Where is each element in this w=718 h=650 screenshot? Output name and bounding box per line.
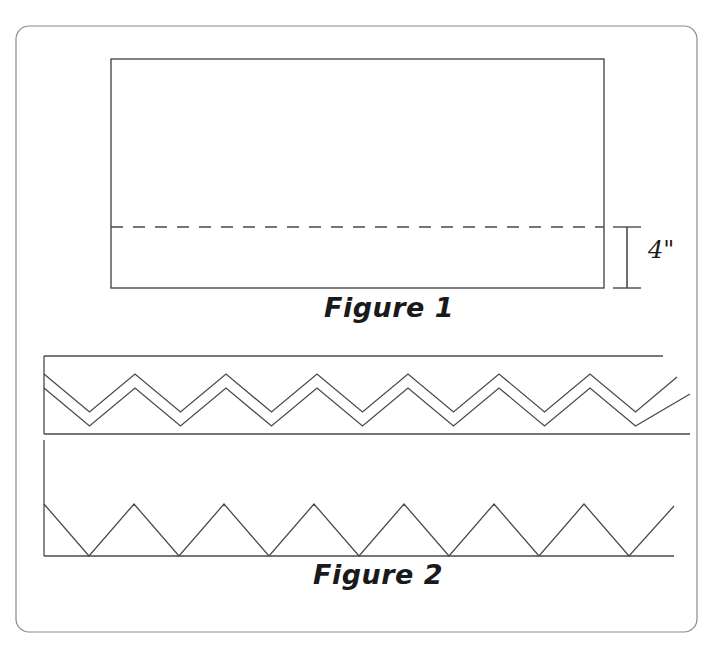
figure-1-rectangle <box>111 59 604 288</box>
dimension-label-4-inch: 4" <box>648 236 674 264</box>
lower-zigzag-cut-line <box>44 504 674 556</box>
figure-1-caption: Figure 1 <box>0 292 718 323</box>
dimension-marker-4in <box>613 227 641 288</box>
diagram-page: Figure 1 Figure 2 4" <box>0 0 718 650</box>
figure-2-upper-panel <box>44 356 690 434</box>
figure-2-caption: Figure 2 <box>0 559 718 590</box>
upper-zigzag-line-inner <box>44 388 690 426</box>
figure-1-group <box>111 59 641 288</box>
figure-diagram-canvas <box>0 0 718 650</box>
rounded-page-border <box>16 26 697 632</box>
figure-2-lower-panel <box>44 440 674 556</box>
upper-zigzag-line-outer <box>44 374 677 412</box>
